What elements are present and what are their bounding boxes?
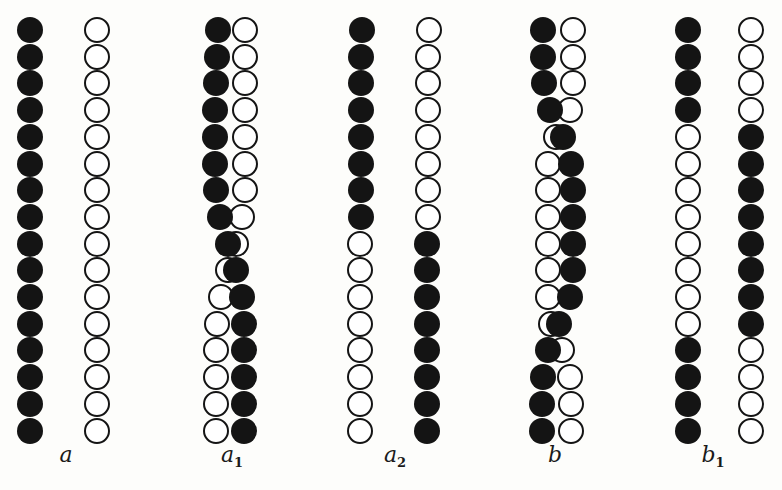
- hollow-bead: [738, 97, 764, 123]
- filled-bead: [560, 257, 586, 283]
- hollow-bead: [347, 284, 373, 310]
- filled-bead: [17, 70, 43, 96]
- filled-bead: [550, 124, 576, 150]
- filled-bead: [231, 364, 257, 390]
- filled-bead: [529, 418, 555, 444]
- filled-bead: [17, 231, 43, 257]
- hollow-bead: [415, 97, 441, 123]
- filled-bead: [738, 257, 764, 283]
- hollow-bead: [560, 44, 586, 70]
- label-letter: b: [701, 442, 715, 467]
- hollow-bead: [84, 364, 110, 390]
- filled-bead: [17, 44, 43, 70]
- filled-bead: [675, 70, 701, 96]
- filled-bead: [738, 231, 764, 257]
- filled-bead: [17, 337, 43, 363]
- filled-bead: [414, 231, 440, 257]
- hollow-bead: [675, 231, 701, 257]
- hollow-bead: [347, 418, 373, 444]
- hollow-bead: [535, 257, 561, 283]
- filled-bead: [414, 284, 440, 310]
- filled-bead: [414, 257, 440, 283]
- hollow-bead: [232, 124, 258, 150]
- hollow-bead: [347, 231, 373, 257]
- hollow-bead: [738, 337, 764, 363]
- filled-bead: [348, 44, 374, 70]
- filled-bead: [17, 124, 43, 150]
- bead-strand-diagram: aa1a2bb1: [0, 0, 782, 490]
- hollow-bead: [232, 97, 258, 123]
- hollow-bead: [560, 17, 586, 43]
- filled-bead: [17, 204, 43, 230]
- hollow-bead: [675, 311, 701, 337]
- filled-bead: [202, 151, 228, 177]
- filled-bead: [348, 70, 374, 96]
- hollow-bead: [738, 418, 764, 444]
- hollow-bead: [232, 70, 258, 96]
- filled-bead: [17, 364, 43, 390]
- filled-bead: [203, 177, 229, 203]
- hollow-bead: [232, 177, 258, 203]
- filled-bead: [675, 337, 701, 363]
- hollow-bead: [84, 391, 110, 417]
- hollow-bead: [203, 337, 229, 363]
- filled-bead: [348, 151, 374, 177]
- hollow-bead: [415, 151, 441, 177]
- panel-label-b1: b1: [701, 442, 724, 470]
- filled-bead: [537, 97, 563, 123]
- hollow-bead: [232, 151, 258, 177]
- filled-bead: [738, 311, 764, 337]
- filled-bead: [231, 337, 257, 363]
- filled-bead: [738, 177, 764, 203]
- hollow-bead: [84, 70, 110, 96]
- filled-bead: [17, 284, 43, 310]
- hollow-bead: [675, 204, 701, 230]
- hollow-bead: [347, 364, 373, 390]
- hollow-bead: [738, 391, 764, 417]
- filled-bead: [414, 364, 440, 390]
- hollow-bead: [535, 177, 561, 203]
- hollow-bead: [203, 364, 229, 390]
- panel-label-a1: a1: [221, 442, 243, 470]
- hollow-bead: [347, 337, 373, 363]
- hollow-bead: [558, 418, 584, 444]
- hollow-bead: [84, 418, 110, 444]
- hollow-bead: [84, 284, 110, 310]
- hollow-bead: [415, 44, 441, 70]
- hollow-bead: [415, 204, 441, 230]
- filled-bead: [231, 418, 257, 444]
- filled-bead: [202, 124, 228, 150]
- hollow-bead: [84, 44, 110, 70]
- hollow-bead: [84, 257, 110, 283]
- filled-bead: [546, 311, 572, 337]
- hollow-bead: [675, 177, 701, 203]
- filled-bead: [675, 44, 701, 70]
- hollow-bead: [84, 231, 110, 257]
- filled-bead: [348, 204, 374, 230]
- label-letter: a: [384, 442, 397, 467]
- hollow-bead: [347, 391, 373, 417]
- filled-bead: [558, 151, 584, 177]
- filled-bead: [17, 177, 43, 203]
- filled-bead: [349, 17, 375, 43]
- hollow-bead: [535, 231, 561, 257]
- filled-bead: [17, 257, 43, 283]
- hollow-bead: [84, 311, 110, 337]
- hollow-bead: [232, 17, 258, 43]
- filled-bead: [530, 44, 556, 70]
- filled-bead: [414, 391, 440, 417]
- filled-bead: [530, 364, 556, 390]
- hollow-bead: [347, 257, 373, 283]
- filled-bead: [17, 418, 43, 444]
- hollow-bead: [84, 124, 110, 150]
- filled-bead: [675, 391, 701, 417]
- hollow-bead: [203, 391, 229, 417]
- filled-bead: [17, 151, 43, 177]
- label-letter: a: [59, 442, 72, 467]
- label-subscript: 1: [234, 455, 243, 470]
- filled-bead: [348, 124, 374, 150]
- filled-bead: [529, 391, 555, 417]
- hollow-bead: [675, 124, 701, 150]
- hollow-bead: [347, 311, 373, 337]
- filled-bead: [414, 311, 440, 337]
